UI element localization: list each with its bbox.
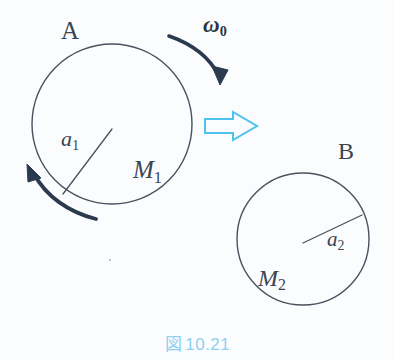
caption-figure-marker: 図 [165,334,183,354]
caption-figure-number: 10.21 [185,335,230,354]
disc-b-outline [237,173,369,305]
disc-b-mass-label: M2 [258,266,286,293]
transition-arrow-icon [205,112,257,140]
disc-b-radius-label: a2 [327,229,344,253]
disc-a-radius-label: a1 [61,128,79,153]
angular-velocity-subscript: 0 [220,23,227,39]
disc-b-radius-symbol: a [327,227,338,251]
disc-a-radius-subscript: 1 [72,137,79,153]
rotation-arrow-bottom-icon [27,164,96,219]
disc-b-name-label: B [338,139,354,163]
disc-a-radius-symbol: a [61,126,72,151]
scan-speck [109,259,111,261]
figure-canvas: A B a1 M1 a2 M2 ω0 図10.21 [0,0,395,360]
angular-velocity-symbol: ω [203,12,220,37]
figure-drawing [0,0,395,360]
disc-a-name-label: A [61,18,79,43]
disc-a-mass-symbol: M [133,156,154,183]
disc-b-radius-subscript: 2 [338,238,345,253]
disc-a-mass-subscript: 1 [154,168,162,187]
disc-a-mass-label: M1 [133,157,162,186]
disc-a-outline [32,44,192,204]
disc-b-mass-symbol: M [258,265,278,291]
disc-b-mass-subscript: 2 [278,276,286,293]
figure-caption: 図10.21 [0,330,395,355]
angular-velocity-label: ω0 [203,13,227,38]
